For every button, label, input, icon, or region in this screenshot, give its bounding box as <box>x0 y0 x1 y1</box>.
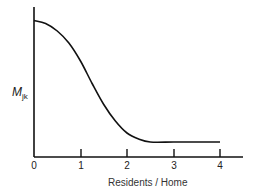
y-label-text: M <box>12 85 22 99</box>
y-label-subscript: jk <box>22 92 28 101</box>
x-tick-label-1: 1 <box>75 160 87 171</box>
mjk-curve <box>34 21 220 143</box>
x-tick-label-3: 3 <box>168 160 180 171</box>
x-axis-label: Residents / Home <box>108 177 187 188</box>
x-tick-label-4: 4 <box>214 160 226 171</box>
x-tick-label-0: 0 <box>28 160 40 171</box>
x-tick-label-2: 2 <box>121 160 133 171</box>
y-axis-label: Mjk <box>12 85 28 101</box>
x-ticks <box>81 149 220 157</box>
